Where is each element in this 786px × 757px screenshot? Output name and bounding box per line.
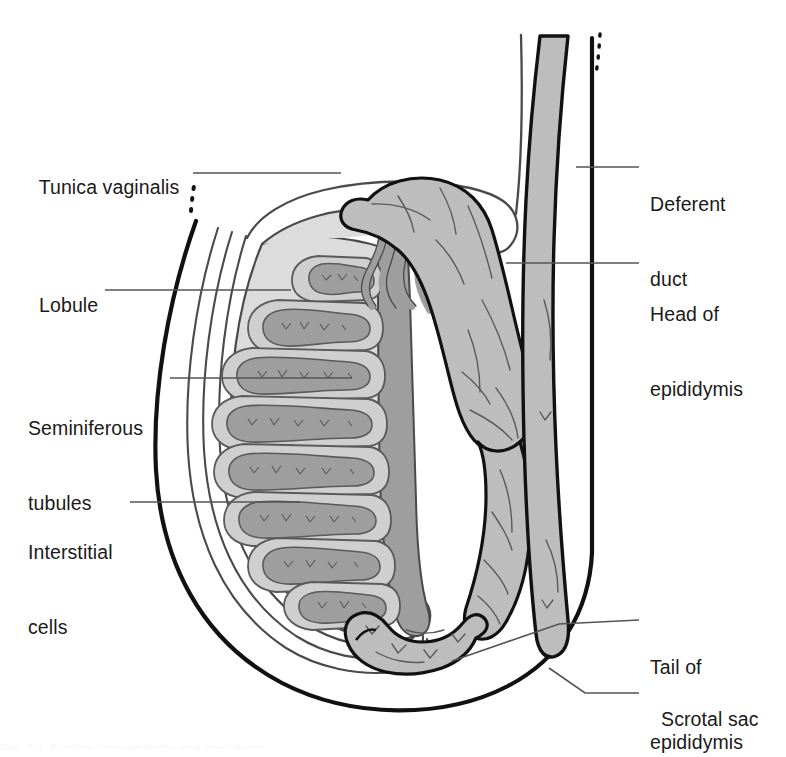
label-deferent-duct-line1: Deferent — [650, 192, 726, 217]
label-scrotal-sac-line1: Scrotal sac — [661, 708, 759, 730]
label-scrotal-sac: Scrotal sac — [650, 682, 759, 732]
label-seminiferous-tubules-line1: Seminiferous — [28, 416, 143, 441]
lobule — [222, 348, 385, 402]
label-tunica-vaginalis: Tunica vaginalis — [28, 150, 179, 200]
label-tail-of-epididymis: Tail of epididymis — [650, 605, 743, 757]
body-of-epididymis — [464, 442, 530, 639]
label-head-of-epididymis-line2: epididymis — [650, 377, 743, 402]
tunica-vaginalis-cord-limb — [516, 35, 522, 214]
lobule — [214, 444, 389, 498]
deferent-duct-group — [523, 34, 600, 657]
label-tail-of-epididymis-line1: Tail of — [650, 655, 743, 680]
label-head-of-epididymis-line1: Head of — [650, 302, 743, 327]
seminiferous-tubule — [239, 501, 376, 538]
epididymis-body-group — [464, 442, 530, 639]
label-lobule: Lobule — [28, 268, 98, 318]
label-head-of-epididymis: Head of epididymis — [650, 252, 743, 427]
figure-caption-partial: Fig. 2.3 Section through testis and epid… — [0, 741, 786, 749]
lobule — [224, 492, 391, 546]
leader-scrotal-sac — [549, 668, 639, 693]
label-tunica-vaginalis-line1: Tunica vaginalis — [39, 176, 180, 198]
seminiferous-tubule — [263, 547, 380, 584]
seminiferous-tubule — [263, 309, 370, 346]
deferent-duct — [523, 36, 569, 657]
label-interstitial-cells: Interstitial cells — [28, 490, 113, 665]
label-interstitial-cells-line2: cells — [28, 615, 113, 640]
lobule — [248, 300, 383, 354]
scrotal-sac-dotted-continuation — [191, 181, 195, 211]
deferent-duct-dotted-continuation — [596, 34, 600, 74]
lobule — [212, 396, 387, 450]
label-lobule-line1: Lobule — [39, 294, 98, 316]
label-interstitial-cells-line1: Interstitial — [28, 540, 113, 565]
